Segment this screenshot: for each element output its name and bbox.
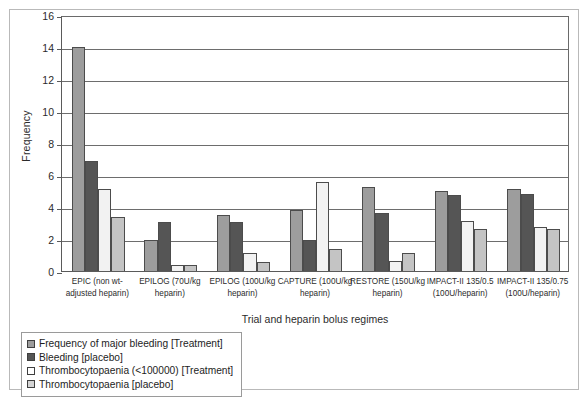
chart-screenshot: Frequency 0246810121416 EPIC (non wt-adj… <box>0 0 588 399</box>
y-tick-mark <box>57 17 62 18</box>
y-tick-mark <box>57 241 62 242</box>
bar <box>72 47 85 271</box>
bar <box>243 253 256 271</box>
legend-item: Thrombocytopaenia (<100000) [Treatment] <box>27 364 233 378</box>
y-axis-tick-labels: 0246810121416 <box>20 16 54 272</box>
bar <box>144 240 157 271</box>
y-tick-label: 16 <box>20 10 54 22</box>
y-tick-label: 12 <box>20 74 54 86</box>
y-tick-label: 4 <box>20 202 54 214</box>
legend-item: Thrombocytopaenia [placebo] <box>27 378 233 392</box>
bar-group <box>507 17 560 271</box>
y-tick-mark <box>57 81 62 82</box>
y-tick-label: 14 <box>20 42 54 54</box>
bar <box>111 217 124 271</box>
bar <box>389 261 402 271</box>
figure-frame: Frequency 0246810121416 EPIC (non wt-adj… <box>9 9 579 390</box>
y-tick-label: 6 <box>20 170 54 182</box>
y-tick-mark <box>57 113 62 114</box>
bar-groups <box>62 17 568 271</box>
bar <box>217 215 230 271</box>
legend-label: Thrombocytopaenia [placebo] <box>39 379 173 390</box>
y-tick-label: 0 <box>20 266 54 278</box>
x-axis-tick-labels: EPIC (non wt-adjusted heparin)EPILOG (70… <box>61 276 569 312</box>
bar <box>362 187 375 271</box>
legend-swatch <box>27 353 35 361</box>
bar <box>448 195 461 271</box>
legend-item: Frequency of major bleeding [Treatment] <box>27 337 233 351</box>
y-tick-mark <box>57 49 62 50</box>
bar-group <box>435 17 488 271</box>
legend-swatch <box>27 380 35 388</box>
bar-group <box>362 17 415 271</box>
x-tick-label: IMPACT-II 135/0.75(100U/heparin) <box>490 276 575 299</box>
legend-swatch <box>27 367 35 375</box>
y-tick-mark <box>57 209 62 210</box>
x-tick-label-line: IMPACT-II 135/0.75 <box>490 276 575 288</box>
bar <box>507 189 520 271</box>
legend-label: Thrombocytopaenia (<100000) [Treatment] <box>39 365 233 376</box>
legend-swatch <box>27 340 35 348</box>
legend-item: Bleeding [placebo] <box>27 351 233 365</box>
legend-label: Bleeding [placebo] <box>39 352 123 363</box>
y-tick-mark <box>57 177 62 178</box>
bar <box>158 222 171 271</box>
chart-legend: Frequency of major bleeding [Treatment]B… <box>21 332 242 397</box>
bar <box>85 161 98 271</box>
bar <box>474 229 487 271</box>
y-tick-label: 2 <box>20 234 54 246</box>
bar-group <box>217 17 270 271</box>
bar <box>184 265 197 271</box>
legend-label: Frequency of major bleeding [Treatment] <box>39 338 223 349</box>
bar-group <box>144 17 197 271</box>
bar <box>316 182 329 271</box>
bar <box>402 253 415 271</box>
y-tick-mark <box>57 273 62 274</box>
y-tick-mark <box>57 145 62 146</box>
y-tick-label: 10 <box>20 106 54 118</box>
bar <box>547 229 560 271</box>
y-tick-label: 8 <box>20 138 54 150</box>
bar <box>435 191 448 271</box>
bar <box>521 194 534 271</box>
bar <box>257 262 270 271</box>
bar-chart: Frequency 0246810121416 EPIC (non wt-adj… <box>10 10 580 315</box>
bar <box>303 240 316 271</box>
bar-group <box>290 17 343 271</box>
bar <box>290 210 303 271</box>
bar <box>98 189 111 271</box>
bar <box>329 249 342 271</box>
plot-area <box>61 16 569 272</box>
bar <box>461 221 474 271</box>
x-tick-label-line: (100U/heparin) <box>490 288 575 300</box>
bar-group <box>72 17 125 271</box>
bar <box>375 213 388 271</box>
x-axis-title: Trial and heparin bolus regimes <box>61 313 569 325</box>
bar <box>534 227 547 271</box>
bar <box>230 222 243 271</box>
bar <box>171 265 184 271</box>
